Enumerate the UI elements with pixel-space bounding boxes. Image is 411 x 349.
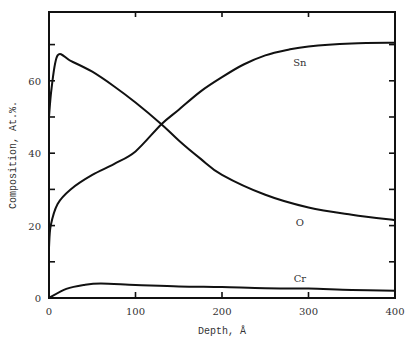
series-label-cr: Cr bbox=[294, 273, 307, 284]
x-tick-label: 0 bbox=[46, 306, 52, 317]
x-tick-label: 300 bbox=[299, 306, 318, 317]
composition-depth-chart: 01002003004000204060 SnOCr Depth, Å Comp… bbox=[0, 0, 411, 349]
y-axis-label: Composition, At.%. bbox=[8, 101, 19, 209]
y-tick-label: 40 bbox=[28, 148, 41, 159]
x-axis-label: Depth, Å bbox=[198, 325, 246, 337]
series-labels: SnOCr bbox=[293, 57, 307, 283]
data-curves bbox=[49, 43, 395, 298]
x-tick-label: 100 bbox=[126, 306, 145, 317]
x-tick-label: 200 bbox=[212, 306, 231, 317]
x-tick-label: 400 bbox=[385, 306, 404, 317]
y-tick-label: 0 bbox=[35, 293, 41, 304]
y-tick-label: 20 bbox=[28, 221, 41, 232]
curve-sn bbox=[49, 43, 395, 248]
series-label-o: O bbox=[296, 217, 304, 228]
plot-frame bbox=[49, 12, 395, 298]
plot-border bbox=[49, 12, 395, 298]
axis-ticks: 01002003004000204060 bbox=[28, 12, 404, 317]
curve-o bbox=[49, 54, 395, 220]
series-label-sn: Sn bbox=[293, 57, 307, 68]
y-tick-label: 60 bbox=[28, 76, 41, 87]
